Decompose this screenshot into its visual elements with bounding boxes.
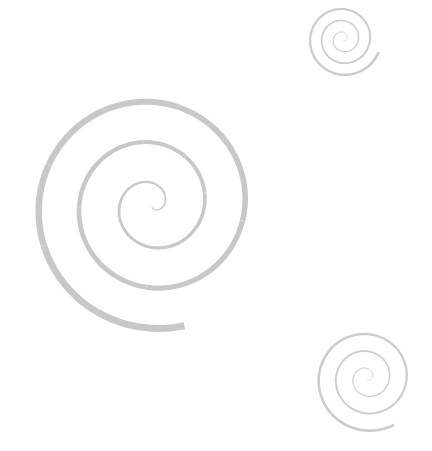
spiral-stroke-segment bbox=[387, 370, 390, 386]
spiral-stroke-segment bbox=[167, 229, 196, 247]
spiral-stroke-segment bbox=[356, 425, 394, 431]
spiral-stroke-segment bbox=[368, 369, 372, 374]
spiral-stroke-segment bbox=[395, 377, 407, 403]
spiral-stroke-segment bbox=[338, 334, 370, 343]
spiral-stroke-segment bbox=[346, 21, 356, 29]
spiral-stroke-segment bbox=[100, 142, 144, 161]
spiral-stroke-segment bbox=[312, 12, 328, 30]
spiral-stroke-segment bbox=[156, 185, 165, 196]
spiral-stroke-segment bbox=[322, 35, 325, 51]
spiral-stroke-segment bbox=[367, 379, 369, 380]
spiral-stroke-segment bbox=[370, 334, 397, 349]
spiral-stroke-segment bbox=[105, 102, 180, 110]
spiral-stroke-segment bbox=[322, 23, 331, 35]
spiral-stroke-segment bbox=[354, 385, 362, 394]
spiral-stroke-segment bbox=[353, 375, 354, 386]
spiral-stroke-segment bbox=[333, 38, 334, 46]
spiral-stroke-segment bbox=[39, 165, 49, 246]
spiral-stroke-segment bbox=[157, 206, 164, 210]
spiral-stroke-segment bbox=[359, 52, 379, 72]
spiral-stroke-segment bbox=[332, 21, 346, 23]
spiral-stroke-segment bbox=[206, 221, 243, 274]
spiral-stroke-segment bbox=[367, 25, 370, 46]
spiral-stroke-segment bbox=[144, 142, 186, 157]
spiral-stroke-segment bbox=[351, 11, 367, 25]
spiral-stroke-segment bbox=[379, 355, 389, 370]
spiral-stroke-segment bbox=[397, 349, 407, 377]
spiral-stroke-segment bbox=[319, 371, 326, 406]
top-right-spiral bbox=[310, 9, 379, 75]
spiral-stroke-segment bbox=[163, 195, 165, 206]
spiral-stroke-segment bbox=[361, 368, 369, 369]
spiral-stroke-segment bbox=[360, 351, 379, 355]
spiral-stroke-segment bbox=[320, 342, 338, 371]
spiral-stroke-segment bbox=[96, 259, 146, 287]
spiral-stroke-segment bbox=[347, 405, 371, 414]
spiral-stroke-segment bbox=[369, 378, 372, 380]
spiral-stroke-segment bbox=[123, 183, 139, 196]
spiral-stroke-segment bbox=[356, 29, 358, 41]
bottom-right-spiral bbox=[319, 334, 407, 431]
spiral-stroke-segment bbox=[352, 41, 359, 50]
spiral-stroke-segment bbox=[333, 33, 337, 38]
spiral-stroke-segment bbox=[97, 312, 184, 328]
spiral-stroke-segment bbox=[371, 403, 396, 413]
spiral-stroke-segment bbox=[372, 374, 373, 379]
spiral-stroke-segment bbox=[152, 207, 157, 210]
spiral-stroke-segment bbox=[234, 153, 246, 220]
spiral-stroke-segment bbox=[324, 51, 338, 62]
large-spiral bbox=[39, 102, 246, 329]
spiral-stroke-segment bbox=[338, 32, 344, 33]
spiral-stroke-segment bbox=[49, 110, 105, 165]
spiral-stroke-segment bbox=[362, 394, 375, 396]
spiral-stroke-segment bbox=[195, 193, 205, 229]
spiral-stroke-segment bbox=[328, 9, 351, 12]
spiral-stroke-segment bbox=[338, 60, 356, 63]
spiral-stroke-segment bbox=[119, 196, 123, 220]
spiral-stroke-segment bbox=[375, 386, 387, 395]
spiral-stroke-segment bbox=[326, 406, 356, 428]
spiral-stroke-segment bbox=[79, 161, 100, 207]
spiral-stroke-segment bbox=[310, 30, 313, 55]
spiral-stroke-segment bbox=[343, 40, 345, 41]
spiral-stroke-segment bbox=[139, 182, 156, 185]
spiral-stroke-segment bbox=[336, 384, 347, 405]
spiral-stroke-segment bbox=[120, 220, 136, 242]
spiral-stroke-segment bbox=[345, 39, 347, 41]
spiral-stroke-segment bbox=[354, 369, 361, 375]
spiral-stroke-segment bbox=[332, 72, 359, 75]
spiral-stroke-segment bbox=[342, 351, 360, 362]
spiral-stroke-segment bbox=[146, 274, 206, 289]
spiral-stroke-segment bbox=[79, 207, 96, 259]
spiral-stroke-segment bbox=[336, 362, 342, 383]
spiral-stroke-segment bbox=[343, 32, 347, 35]
spiral-stroke-segment bbox=[179, 107, 233, 153]
spiral-canvas bbox=[0, 0, 432, 451]
spiral-stroke-segment bbox=[185, 157, 204, 193]
spiral-stroke-segment bbox=[342, 50, 352, 52]
spiral-stroke-segment bbox=[335, 46, 342, 51]
spiral-stroke-segment bbox=[44, 246, 97, 312]
spiral-stroke-segment bbox=[356, 45, 369, 60]
spiral-stroke-segment bbox=[136, 242, 166, 248]
